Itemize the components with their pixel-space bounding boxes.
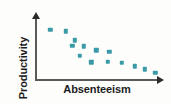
- data-point: [143, 67, 147, 71]
- data-point: [64, 29, 68, 33]
- data-point: [120, 61, 124, 65]
- data-point: [72, 38, 76, 42]
- data-point: [78, 53, 82, 57]
- data-point: [107, 49, 111, 53]
- x-axis-label: Absenteeism: [35, 83, 159, 95]
- scatter-plot-figure: Productivity Absenteeism: [0, 0, 171, 103]
- y-axis-label: Productivity: [16, 31, 30, 104]
- data-point: [133, 64, 137, 68]
- plot-area: [35, 14, 163, 80]
- data-point: [94, 48, 98, 52]
- data-point: [48, 28, 52, 32]
- data-point: [153, 71, 157, 75]
- data-point: [106, 59, 110, 63]
- data-point: [70, 43, 74, 47]
- data-point: [81, 44, 85, 48]
- data-point: [89, 60, 93, 64]
